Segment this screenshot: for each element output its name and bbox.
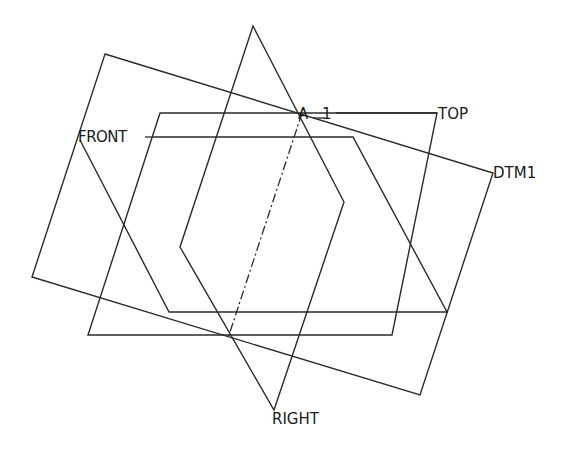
label-top[interactable]: TOP (437, 105, 468, 123)
datum-axis-a1[interactable] (228, 113, 302, 338)
label-front[interactable]: FRONT (78, 128, 128, 146)
plane-front[interactable] (80, 137, 447, 312)
plane-right[interactable] (180, 26, 344, 410)
label-axis-letter[interactable]: A (298, 105, 309, 123)
plane-top[interactable] (88, 113, 437, 335)
plane-dtm1[interactable] (32, 54, 493, 395)
label-right[interactable]: RIGHT (272, 410, 320, 428)
label-axis-number[interactable]: 1 (322, 105, 332, 123)
label-dtm1[interactable]: DTM1 (493, 164, 536, 182)
datum-planes-diagram: DTM1 TOP FRONT RIGHT A 1 (0, 0, 574, 455)
